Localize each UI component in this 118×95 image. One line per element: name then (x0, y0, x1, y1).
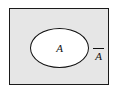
complement-label: A (92, 48, 105, 62)
venn-diagram-figure: A A (0, 0, 118, 95)
complement-label-letter: A (92, 51, 105, 62)
overbar-icon (93, 48, 104, 49)
set-a-label: A (30, 28, 89, 68)
